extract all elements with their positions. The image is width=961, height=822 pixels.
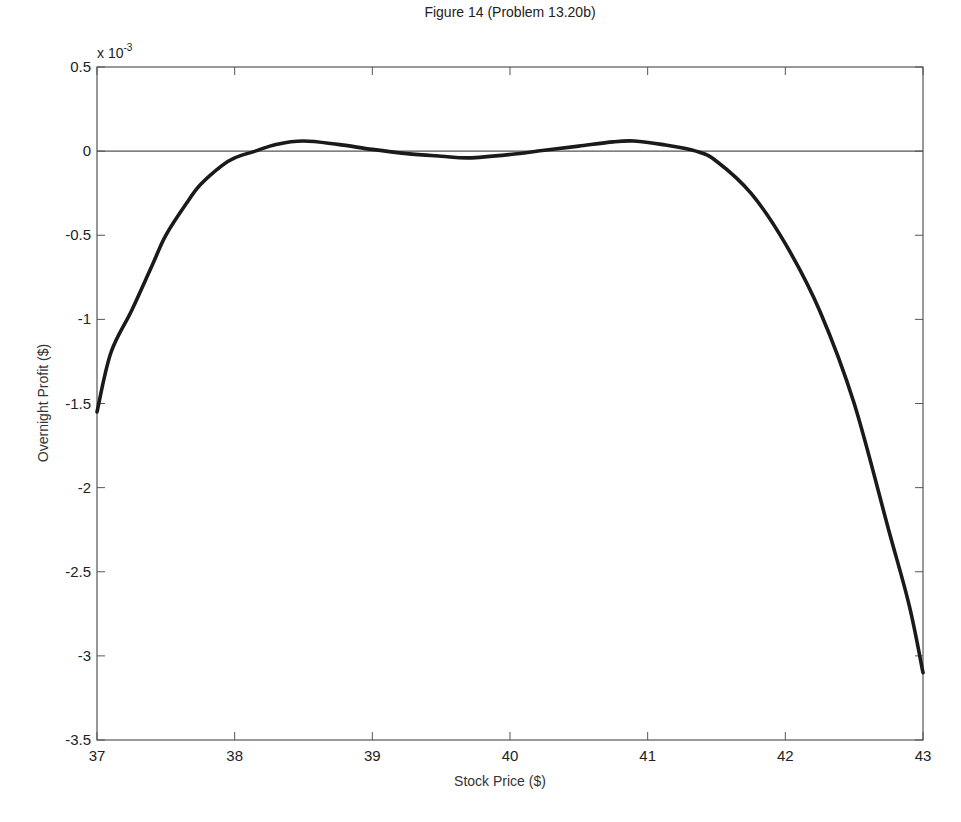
y-tick-label: -3.5 — [65, 731, 91, 748]
y-tick-label: -2 — [78, 479, 91, 496]
x-tick-label: 38 — [226, 747, 243, 764]
y-multiplier-base: x 10 — [97, 45, 124, 61]
y-axis-multiplier: x 10-3 — [97, 42, 133, 61]
y-tick-label: -3 — [78, 647, 91, 664]
y-axis-label: Overnight Profit ($) — [35, 344, 51, 462]
x-tick-label: 37 — [89, 747, 106, 764]
x-tick-label: 40 — [502, 747, 519, 764]
y-tick-label: -2.5 — [65, 563, 91, 580]
x-tick-label: 43 — [915, 747, 932, 764]
data-series — [97, 141, 923, 673]
x-tick-label: 42 — [777, 747, 794, 764]
x-tick-label: 41 — [639, 747, 656, 764]
y-tick-label: -1 — [78, 310, 91, 327]
line-chart: Figure 14 (Problem 13.20b) x 10-3 373839… — [0, 0, 961, 822]
x-axis-label: Stock Price ($) — [454, 773, 546, 789]
y-tick-label: -1.5 — [65, 395, 91, 412]
x-tick-label: 39 — [364, 747, 381, 764]
y-multiplier-exponent: -3 — [123, 42, 132, 53]
profit-curve — [97, 141, 923, 673]
svg-text:x 10-3: x 10-3 — [97, 42, 133, 61]
y-tick-label: 0 — [83, 142, 91, 159]
y-axis-ticks: 0.50-0.5-1-1.5-2-2.5-3-3.5 — [65, 58, 923, 748]
y-tick-label: -0.5 — [65, 226, 91, 243]
chart-title: Figure 14 (Problem 13.20b) — [424, 4, 595, 20]
y-tick-label: 0.5 — [70, 58, 91, 75]
